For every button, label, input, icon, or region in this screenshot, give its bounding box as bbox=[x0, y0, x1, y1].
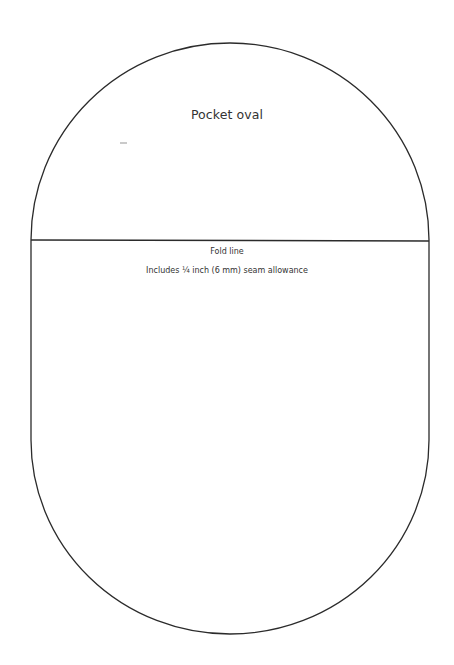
fold-line-label: Fold line bbox=[0, 247, 454, 256]
pocket-oval-outline bbox=[31, 43, 429, 634]
fold-line bbox=[31, 240, 429, 241]
seam-allowance-note: Includes ¼ inch (6 mm) seam allowance bbox=[0, 266, 454, 275]
pattern-piece-diagram bbox=[0, 0, 454, 665]
pattern-title: Pocket oval bbox=[0, 107, 454, 122]
